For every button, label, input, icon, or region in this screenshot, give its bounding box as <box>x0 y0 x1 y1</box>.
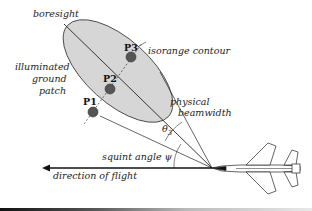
theta3-label: θ3 <box>162 123 172 139</box>
squint-arc <box>174 144 181 168</box>
illuminated-patch-label-1: illuminated <box>15 61 70 72</box>
squint-angle-label: squint angle ψ <box>102 151 172 162</box>
illuminated-patch-label-2: ground <box>32 73 67 84</box>
boresight-label: boresight <box>33 8 79 19</box>
aircraft-icon <box>212 143 300 194</box>
point-p3-label: P3 <box>124 42 138 53</box>
isorange-contour-label: isorange contour <box>148 45 230 56</box>
illuminated-patch-label-3: patch <box>39 85 66 96</box>
bottom-rule <box>0 208 312 211</box>
isorange-leader <box>139 42 146 46</box>
direction-arrowhead <box>42 165 50 172</box>
point-p1-label: P1 <box>83 96 97 107</box>
physical-beamwidth-label-1: physical <box>170 96 210 107</box>
radar-geometry-diagram <box>0 0 312 211</box>
point-p2-label: P2 <box>103 73 117 84</box>
physical-beamwidth-label-2: beamwidth <box>178 107 232 118</box>
theta-subscript: 3 <box>168 129 172 137</box>
point-p1 <box>88 107 98 117</box>
point-p3 <box>126 52 136 62</box>
direction-of-flight-label: direction of flight <box>53 170 137 181</box>
point-p2 <box>105 84 115 94</box>
